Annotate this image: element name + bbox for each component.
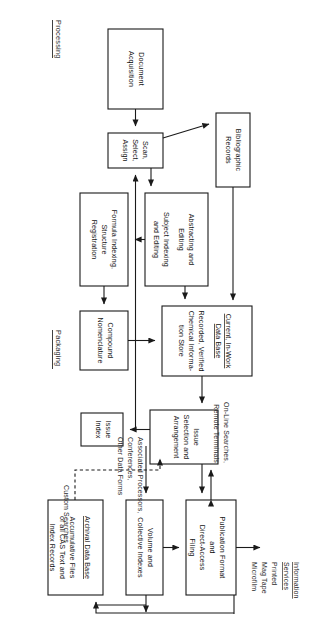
annotation-custom-searches: Custom Searches (63, 485, 70, 543)
node-issue-selection-and-arrangement[interactable]: Issue Selection and Arrangement (150, 410, 218, 464)
node-line-2: Editing (177, 228, 185, 251)
annotation-line-1: On-Line Searches, (223, 402, 230, 463)
node-box (80, 311, 128, 370)
annotation-information-services: Information Services Printed Mag Tape Mi… (251, 562, 300, 599)
annotation-online-searches: On-Line Searches, Remote Terminals (213, 402, 230, 463)
node-line-4: and Editing (152, 221, 160, 258)
node-line-1: Document (137, 52, 145, 86)
node-line-3: Subject Indexing (162, 212, 170, 267)
node-line-2: Select, (131, 139, 139, 162)
node-line-1: Formula Indexing, (110, 210, 118, 269)
edge-scan-to-bibliographic (163, 124, 209, 138)
node-box (162, 306, 252, 376)
node-formula-indexing[interactable]: Formula Indexing, Structure Registration (80, 193, 128, 286)
node-line-2: Structure (100, 224, 108, 254)
node-line-3: Arrangement (172, 416, 180, 459)
section-heading-packaging: Packaging (53, 330, 64, 369)
edge-publication-to-archival (96, 602, 234, 613)
annotation-line-1: Associated Processors, (137, 437, 144, 513)
node-current-in-work-data-base[interactable]: Current, In-Work Data Base Recorded, Ver… (162, 306, 252, 376)
node-box (216, 113, 250, 187)
annotation-header-line-2: Services (283, 562, 290, 590)
node-line-2: Chemical Informa- (187, 311, 195, 372)
annotation-line-2: Conferences, (127, 437, 134, 480)
node-compound-nomenclature[interactable]: Compound Nomenclature (80, 311, 128, 370)
node-line-3: Registration (90, 220, 98, 260)
node-box (108, 29, 163, 109)
node-line-3: Direct-Access (198, 525, 206, 571)
process-flow-diagram: Processing Packaging Document Acquisitio… (0, 0, 318, 640)
section-heading-processing: Processing (53, 20, 64, 59)
annotation-line-3: Microfilm (251, 562, 258, 591)
node-document-acquisition[interactable]: Document Acquisition (108, 29, 163, 109)
rotated-diagram-wrapper: Processing Packaging Document Acquisitio… (0, 0, 318, 640)
node-header-line-2: Data Base (214, 324, 222, 358)
figure-canvas: Processing Packaging Document Acquisitio… (0, 0, 318, 640)
node-line-2: Nomenclature (96, 318, 104, 364)
node-line-1: Volume and (146, 528, 154, 567)
node-line-1: Publication Format (218, 517, 226, 579)
node-line-1: Issue (192, 428, 200, 446)
annotation-line-2: Mag Tape (260, 562, 268, 594)
node-header-line-1: Archival Data Base (83, 516, 91, 579)
node-line-1: Issue (104, 421, 112, 439)
annotation-line-1: Printed (271, 562, 278, 585)
node-publication-format[interactable]: Publication Format and Direct-Access Fil… (186, 500, 236, 595)
node-header-line-1: Current, In-Work (224, 314, 232, 369)
node-line-1: Abstracting and (187, 214, 195, 266)
node-abstracting-and-editing[interactable]: Abstracting and Editing Subject Indexing… (145, 193, 208, 286)
node-line-1: Recorded, Verified (197, 310, 205, 371)
node-line-2: and (208, 541, 216, 553)
node-line-1: Bibliographic (234, 129, 242, 172)
annotation-header-line-1: Information (293, 562, 300, 599)
node-box (126, 500, 163, 595)
node-line-4: Filing (188, 539, 196, 557)
node-line-2: Acquisition (127, 51, 135, 87)
annotation-line-1: Custom Searches (63, 485, 70, 543)
node-volume-collective-indexes[interactable]: Volume and Collective Indexes (126, 500, 163, 595)
node-line-3: Index Records (48, 524, 56, 572)
node-line-2: Records (224, 136, 232, 164)
node-line-1: Scan, (141, 141, 149, 160)
node-scan-select-assign[interactable]: Scan, Select, Assign (108, 133, 163, 168)
node-line-2: Selection and (182, 415, 190, 460)
node-line-3: tion Store (177, 325, 185, 357)
node-line-1: Compound (106, 323, 114, 359)
section-label-processing: Processing (54, 20, 63, 59)
node-archival-data-base[interactable]: Archival Data Base Accumulative Files of… (48, 500, 103, 595)
section-label-packaging: Packaging (54, 330, 63, 366)
node-line-2: Collective Indexes (136, 517, 144, 578)
node-bibliographic-records[interactable]: Bibliographic Records (216, 113, 250, 187)
annotation-line-3: Other Data Forms (117, 437, 124, 496)
annotation-line-2: Remote Terminals (213, 404, 220, 463)
node-line-3: Assign (121, 139, 129, 161)
node-line-2: Index (94, 420, 102, 438)
